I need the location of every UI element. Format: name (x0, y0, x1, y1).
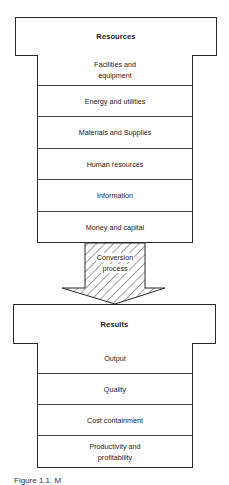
results-title: Results (101, 320, 129, 329)
result-item-output: Output (38, 343, 192, 374)
results-list: Output Quality Cost containment Producti… (37, 343, 193, 468)
results-header: Results (13, 304, 216, 344)
conversion-process-label: Conversion process (85, 252, 145, 274)
result-item-cost-containment: Cost containment (38, 405, 192, 436)
figure-caption: Figure 1.1. M (14, 476, 61, 485)
result-item-quality: Quality (38, 374, 192, 405)
result-item-productivity: Productivity and profitability (38, 436, 192, 467)
